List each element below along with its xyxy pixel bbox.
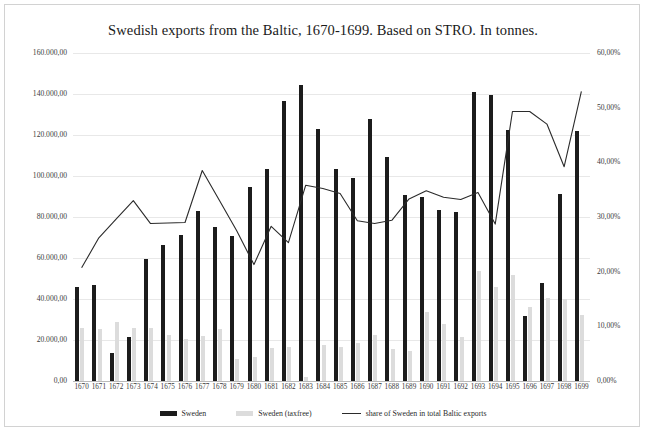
chart-frame: Swedish exports from the Baltic, 1670-16… bbox=[4, 4, 640, 427]
legend-label: share of Sweden in total Baltic exports bbox=[366, 409, 487, 418]
y-axis-right-tick: 10,00% bbox=[597, 322, 620, 330]
legend-line-swatch-icon bbox=[342, 413, 361, 414]
x-axis-tick-1671: 1671 bbox=[90, 384, 107, 391]
y-axis-right-tick: 50,00% bbox=[597, 104, 620, 112]
gridline bbox=[73, 381, 590, 382]
y-axis-left-tick: 0,00 bbox=[54, 377, 67, 385]
x-axis-tick-1690: 1690 bbox=[418, 384, 435, 391]
x-axis-tick-1691: 1691 bbox=[435, 384, 452, 391]
x-axis-tick-1673: 1673 bbox=[125, 384, 142, 391]
y-axis-left-tick: 80.000,00 bbox=[37, 213, 67, 221]
y-axis-right-tick: 40,00% bbox=[597, 158, 620, 166]
x-axis-tick-1681: 1681 bbox=[263, 384, 280, 391]
x-axis-tick-1685: 1685 bbox=[332, 384, 349, 391]
legend-label: Sweden (taxfree) bbox=[258, 409, 311, 418]
x-axis-tick-1688: 1688 bbox=[383, 384, 400, 391]
y-axis-left-tick: 160.000,00 bbox=[33, 49, 67, 57]
x-axis-tick-1694: 1694 bbox=[487, 384, 504, 391]
y-axis-left-tick: 140.000,00 bbox=[33, 90, 67, 98]
y-axis-left-tick: 40.000,00 bbox=[37, 295, 67, 303]
legend-item: Sweden bbox=[160, 409, 207, 418]
y-axis-right-tick: 60,00% bbox=[597, 49, 620, 57]
y-axis-right-tick: 0,00% bbox=[597, 377, 617, 385]
chart-legend: SwedenSweden (taxfree)share of Sweden in… bbox=[5, 409, 641, 418]
x-axis-tick-1674: 1674 bbox=[142, 384, 159, 391]
x-axis-tick-1682: 1682 bbox=[280, 384, 297, 391]
legend-label: Sweden bbox=[182, 409, 207, 418]
legend-item: Sweden (taxfree) bbox=[236, 409, 311, 418]
legend-bar-light-swatch-icon bbox=[236, 411, 253, 416]
x-axis-tick-1686: 1686 bbox=[349, 384, 366, 391]
x-axis-tick-1678: 1678 bbox=[211, 384, 228, 391]
y-axis-right-tick: 30,00% bbox=[597, 213, 620, 221]
x-axis-tick-1684: 1684 bbox=[314, 384, 331, 391]
x-axis-tick-1680: 1680 bbox=[245, 384, 262, 391]
chart-title: Swedish exports from the Baltic, 1670-16… bbox=[5, 22, 641, 39]
plot-area: 0,0020.000,0040.000,0060.000,0080.000,00… bbox=[73, 53, 590, 381]
x-axis-tick-1689: 1689 bbox=[400, 384, 417, 391]
x-axis-tick-1679: 1679 bbox=[228, 384, 245, 391]
y-axis-left-tick: 20.000,00 bbox=[37, 336, 67, 344]
legend-bar-dark-swatch-icon bbox=[160, 411, 177, 416]
x-axis-tick-1698: 1698 bbox=[556, 384, 573, 391]
x-axis-labels: 1670167116721673167416751676167716781679… bbox=[73, 384, 590, 404]
x-axis-tick-1697: 1697 bbox=[538, 384, 555, 391]
y-axis-left-tick: 60.000,00 bbox=[37, 254, 67, 262]
y-axis-right-tick: 20,00% bbox=[597, 268, 620, 276]
x-axis-tick-1683: 1683 bbox=[297, 384, 314, 391]
x-axis-tick-1695: 1695 bbox=[504, 384, 521, 391]
share-line-path bbox=[82, 91, 582, 268]
x-axis-tick-1670: 1670 bbox=[73, 384, 90, 391]
y-axis-left-tick: 100.000,00 bbox=[33, 172, 67, 180]
y-axis-left-tick: 120.000,00 bbox=[33, 131, 67, 139]
x-axis-tick-1699: 1699 bbox=[573, 384, 590, 391]
x-axis-tick-1687: 1687 bbox=[366, 384, 383, 391]
line-series-share bbox=[73, 53, 590, 381]
x-axis-tick-1676: 1676 bbox=[176, 384, 193, 391]
x-axis-tick-1672: 1672 bbox=[107, 384, 124, 391]
legend-item: share of Sweden in total Baltic exports bbox=[342, 409, 487, 418]
x-axis-tick-1696: 1696 bbox=[521, 384, 538, 391]
x-axis-tick-1677: 1677 bbox=[194, 384, 211, 391]
x-axis-tick-1692: 1692 bbox=[452, 384, 469, 391]
x-axis-tick-1693: 1693 bbox=[469, 384, 486, 391]
x-axis-tick-1675: 1675 bbox=[159, 384, 176, 391]
